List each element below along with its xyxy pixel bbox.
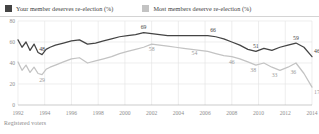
x-axis-tick-label: 1992: [12, 110, 23, 116]
legend-item-most-members: Most members deserve re-election (%): [142, 5, 251, 12]
legend-label-most-members: Most members deserve re-election (%): [153, 5, 251, 12]
legend-label-your-member: Your member deserves re-election (%): [16, 5, 113, 12]
chart-plot-area: 0204060801992199419961998200020022004200…: [0, 16, 319, 116]
y-axis-tick-label: 20: [9, 81, 15, 87]
x-axis-tick-label: 2000: [119, 110, 130, 116]
x-axis-tick-label: 1998: [93, 110, 104, 116]
y-axis-tick-label: 60: [9, 39, 15, 45]
series-line: [18, 33, 312, 57]
y-axis-tick-label: 80: [9, 18, 15, 24]
data-point-label: 59: [293, 35, 299, 41]
data-point-label: 17: [314, 89, 319, 95]
legend-swatch-most-members: [142, 5, 149, 12]
x-axis-tick-label: 2004: [173, 110, 184, 116]
chart-footnote: Registered voters: [4, 120, 46, 126]
x-axis-tick-label: 2006: [199, 110, 210, 116]
x-axis-tick-label: 2002: [146, 110, 157, 116]
x-axis-tick-label: 1996: [66, 110, 77, 116]
legend-item-your-member: Your member deserves re-election (%): [5, 5, 113, 12]
data-point-label: 36: [290, 69, 296, 75]
data-point-label: 38: [250, 67, 256, 73]
data-point-label: 54: [192, 50, 198, 56]
data-point-label: 46: [314, 48, 319, 54]
x-axis-tick-label: 2008: [226, 110, 237, 116]
series-line: [18, 44, 312, 87]
x-axis-tick-label: 1994: [39, 110, 50, 116]
data-point-label: 66: [210, 27, 216, 33]
data-point-label: 48: [39, 46, 45, 52]
chart-legend: Your member deserves re-election (%) Mos…: [0, 0, 319, 16]
data-point-label: 58: [149, 46, 155, 52]
data-point-label: 29: [39, 77, 45, 83]
x-axis-tick-label: 2010: [253, 110, 264, 116]
data-point-label: 33: [272, 72, 278, 78]
x-axis-tick-label: 2012: [280, 110, 291, 116]
y-axis-tick-label: 40: [9, 60, 15, 66]
chart-figure: Your member deserves re-election (%) Mos…: [0, 0, 319, 134]
line-chart-canvas: 0204060801992199419961998200020022004200…: [0, 16, 319, 116]
legend-swatch-your-member: [5, 5, 12, 12]
data-point-label: 69: [141, 24, 147, 30]
data-point-label: 46: [229, 59, 235, 65]
y-axis-tick-label: 0: [12, 102, 15, 108]
x-axis-tick-label: 2014: [306, 110, 317, 116]
data-point-label: 51: [253, 43, 259, 49]
